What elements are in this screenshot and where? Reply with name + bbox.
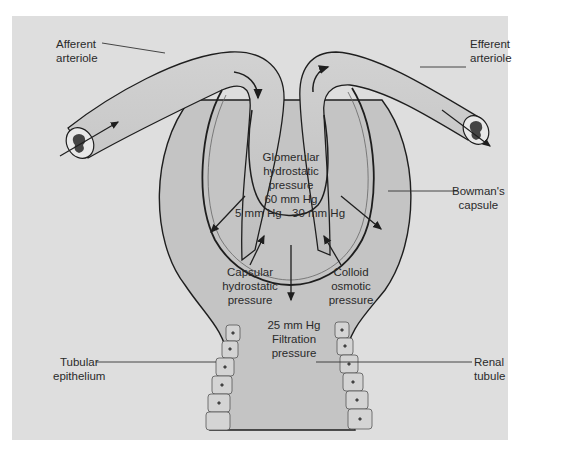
efferent-arteriole-label: Efferent arteriole bbox=[470, 37, 512, 65]
colloid-pressure-label: Colloid osmotic pressure bbox=[316, 265, 386, 307]
afferent-arteriole-label: Afferent arteriole bbox=[56, 37, 98, 65]
glomerular-line-2: hydrostatic bbox=[246, 164, 336, 178]
capsular-line-2: hydrostatic bbox=[212, 279, 288, 293]
efferent-line-1: Efferent bbox=[470, 37, 512, 51]
filtration-value: 25 mm Hg bbox=[256, 318, 332, 332]
tubular-line-1: Tubular bbox=[53, 355, 105, 369]
efferent-line-2: arteriole bbox=[470, 51, 512, 65]
glomerular-pressure-label: Glomerular hydrostatic pressure 60 mm Hg bbox=[246, 150, 336, 206]
capsular-value: 5 mm Hg bbox=[235, 206, 282, 220]
colloid-line-1: Colloid bbox=[316, 265, 386, 279]
capsular-line-1: Capsular bbox=[212, 265, 288, 279]
renal-line-2: tubule bbox=[474, 369, 505, 383]
capsular-line-3: pressure bbox=[212, 293, 288, 307]
renal-tubule-label: Renal tubule bbox=[474, 355, 505, 383]
colloid-value: 30 mm Hg bbox=[292, 206, 345, 220]
glomerular-value: 60 mm Hg bbox=[246, 192, 336, 206]
bowmans-line-1: Bowman's bbox=[452, 184, 505, 198]
capsular-pressure-label: Capsular hydrostatic pressure bbox=[212, 265, 288, 307]
tubular-line-2: epithelium bbox=[53, 369, 105, 383]
glomerular-line-1: Glomerular bbox=[246, 150, 336, 164]
afferent-line-1: Afferent bbox=[56, 37, 98, 51]
bowmans-capsule-label: Bowman's capsule bbox=[452, 184, 505, 212]
tubular-epithelium-label: Tubular epithelium bbox=[53, 355, 105, 383]
colloid-line-3: pressure bbox=[316, 293, 386, 307]
afferent-line-2: arteriole bbox=[56, 51, 98, 65]
filtration-pressure-label: 25 mm Hg Filtration pressure bbox=[256, 318, 332, 360]
renal-line-1: Renal bbox=[474, 355, 505, 369]
filtration-line-2: pressure bbox=[256, 346, 332, 360]
glomerular-line-3: pressure bbox=[246, 178, 336, 192]
colloid-line-2: osmotic bbox=[316, 279, 386, 293]
bowmans-line-2: capsule bbox=[452, 198, 505, 212]
filtration-line-1: Filtration bbox=[256, 332, 332, 346]
